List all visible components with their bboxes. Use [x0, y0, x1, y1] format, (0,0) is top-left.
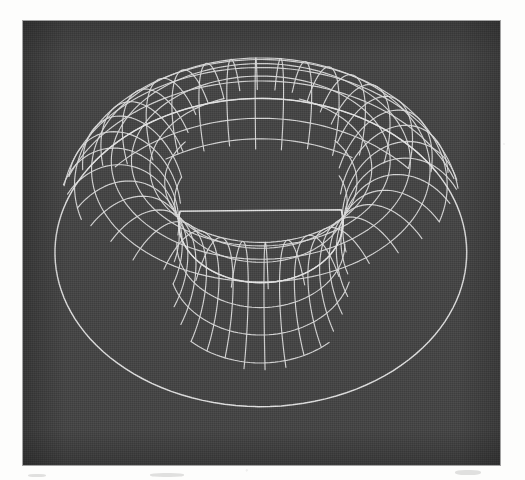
mesh-grid-line [333, 110, 339, 155]
mesh-grid-line [307, 103, 311, 148]
mesh-grid-line [68, 165, 180, 262]
mesh-grid-line [191, 341, 329, 363]
scan-smudge [28, 474, 46, 477]
figure-root [0, 0, 525, 480]
mesh-grid-line [166, 139, 352, 159]
torus-wireframe [23, 21, 500, 465]
mesh-grid-line [320, 217, 399, 331]
mesh-grid-line [173, 282, 349, 335]
mesh-grid-line [199, 106, 204, 151]
scan-smudge [455, 470, 481, 475]
mesh-grid-line [74, 59, 447, 219]
mesh-grid-line [69, 81, 454, 179]
mesh-grid-line [63, 148, 178, 235]
mesh-grid-line [343, 158, 457, 252]
mesh-grid-line [343, 244, 345, 258]
render-viewport [23, 21, 500, 465]
mesh-grid-line [280, 240, 305, 367]
mesh-grid-line [320, 75, 365, 120]
mesh-grid-line [146, 78, 196, 124]
mesh-silhouette-line [55, 98, 467, 406]
mesh-grid-line [227, 101, 230, 146]
mesh-grid-line [335, 141, 357, 196]
mesh-grid-line [341, 175, 450, 274]
mesh-grid-line [281, 99, 283, 149]
mesh-grid-line [439, 199, 446, 222]
mesh-grid-line [101, 155, 102, 165]
mesh-grid-line [255, 98, 256, 148]
mesh-grid-line [64, 68, 458, 189]
torus-mesh-group [55, 58, 467, 407]
mesh-grid-line [264, 242, 268, 369]
scan-smudge [150, 473, 184, 477]
mesh-grid-line [196, 238, 233, 358]
mesh-grid-line [175, 177, 345, 262]
mesh-grid-line [164, 231, 219, 351]
